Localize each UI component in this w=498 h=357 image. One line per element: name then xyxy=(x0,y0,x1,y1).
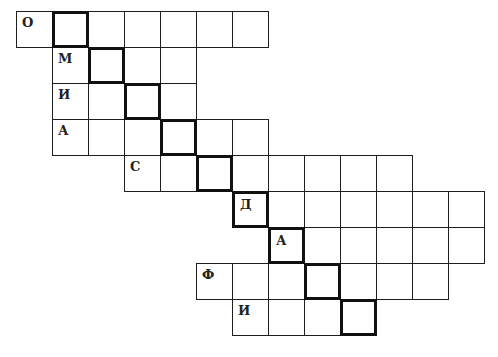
crossword-key-cell[interactable] xyxy=(340,299,377,336)
cell-letter: М xyxy=(58,51,72,66)
crossword-cell[interactable] xyxy=(196,11,233,48)
crossword-cell[interactable] xyxy=(124,11,161,48)
crossword-cell[interactable] xyxy=(412,191,449,228)
cell-letter: А xyxy=(58,123,69,138)
crossword-cell[interactable] xyxy=(124,119,161,156)
crossword-cell[interactable]: М xyxy=(52,47,89,84)
crossword-key-cell[interactable]: Д xyxy=(232,191,269,228)
crossword-cell[interactable] xyxy=(448,227,485,264)
crossword-cell[interactable] xyxy=(268,299,305,336)
crossword-cell[interactable] xyxy=(340,191,377,228)
crossword-cell[interactable] xyxy=(232,119,269,156)
cell-letter: Д xyxy=(240,197,252,212)
crossword-key-cell[interactable] xyxy=(88,47,125,84)
crossword-cell[interactable] xyxy=(160,11,197,48)
crossword-cell[interactable] xyxy=(448,191,485,228)
crossword-cell[interactable] xyxy=(376,191,413,228)
crossword-cell[interactable] xyxy=(268,191,305,228)
crossword-key-cell[interactable] xyxy=(196,155,233,192)
crossword-cell[interactable] xyxy=(88,11,125,48)
crossword-cell[interactable] xyxy=(268,155,305,192)
crossword-cell[interactable] xyxy=(160,47,197,84)
crossword-cell[interactable] xyxy=(340,227,377,264)
crossword-cell[interactable] xyxy=(232,263,269,300)
crossword-cell[interactable]: И xyxy=(232,299,269,336)
cell-letter: Ф xyxy=(202,267,214,282)
crossword-key-cell[interactable]: А xyxy=(268,227,305,264)
crossword-cell[interactable]: Ф xyxy=(196,263,233,300)
cell-letter: И xyxy=(238,303,250,318)
crossword-cell[interactable] xyxy=(340,155,377,192)
crossword-cell[interactable] xyxy=(412,263,449,300)
crossword-cell[interactable] xyxy=(232,155,269,192)
crossword-grid: ОМИАСДАФИ xyxy=(0,0,498,357)
crossword-cell[interactable] xyxy=(88,119,125,156)
crossword-key-cell[interactable] xyxy=(160,119,197,156)
cell-letter: С xyxy=(130,159,140,174)
crossword-cell[interactable] xyxy=(124,47,161,84)
cell-letter: О xyxy=(22,15,33,30)
cell-letter: И xyxy=(58,87,70,102)
crossword-cell[interactable] xyxy=(160,83,197,120)
crossword-cell[interactable] xyxy=(340,263,377,300)
crossword-cell[interactable] xyxy=(376,263,413,300)
cell-letter: А xyxy=(276,233,287,248)
crossword-cell[interactable] xyxy=(376,227,413,264)
crossword-cell[interactable] xyxy=(88,83,125,120)
crossword-cell[interactable]: О xyxy=(16,11,53,48)
crossword-cell[interactable] xyxy=(376,155,413,192)
crossword-cell[interactable]: С xyxy=(124,155,161,192)
crossword-cell[interactable] xyxy=(268,263,305,300)
crossword-cell[interactable] xyxy=(232,11,269,48)
crossword-key-cell[interactable] xyxy=(52,11,89,48)
crossword-cell[interactable] xyxy=(304,191,341,228)
crossword-key-cell[interactable] xyxy=(304,263,341,300)
crossword-cell[interactable] xyxy=(412,227,449,264)
crossword-cell[interactable] xyxy=(160,155,197,192)
crossword-cell[interactable] xyxy=(304,227,341,264)
crossword-cell[interactable] xyxy=(304,299,341,336)
crossword-cell[interactable] xyxy=(196,119,233,156)
crossword-key-cell[interactable] xyxy=(124,83,161,120)
crossword-cell[interactable]: И xyxy=(52,83,89,120)
crossword-cell[interactable]: А xyxy=(52,119,89,156)
crossword-cell[interactable] xyxy=(304,155,341,192)
